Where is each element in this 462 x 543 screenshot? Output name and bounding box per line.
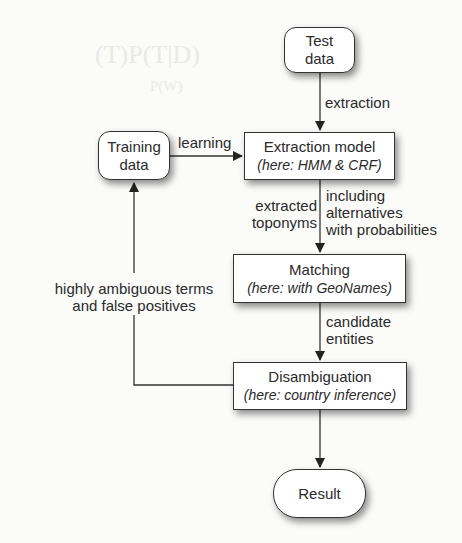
- node-title: Disambiguation: [268, 368, 371, 386]
- node-label: Training: [107, 138, 161, 156]
- node-test-data: Test data: [284, 27, 355, 73]
- label-line: entities: [326, 330, 391, 347]
- node-result: Result: [273, 469, 366, 518]
- node-title: Matching: [289, 261, 350, 279]
- label-line: extracted: [250, 197, 317, 214]
- node-title: Extraction model: [264, 138, 376, 156]
- node-extraction-model: Extraction model (here: HMM & CRF): [244, 132, 395, 180]
- node-subtitle: (here: with GeoNames): [247, 279, 392, 297]
- label-line: toponyms: [250, 214, 317, 231]
- edge-label-learning: learning: [178, 134, 231, 151]
- edge-label-extracted-toponyms: extracted toponyms: [250, 197, 317, 231]
- node-subtitle: (here: country inference): [244, 386, 397, 404]
- label-line: highly ambiguous terms: [24, 280, 244, 297]
- node-subtitle: (here: HMM & CRF): [257, 156, 381, 174]
- node-disambiguation: Disambiguation (here: country inference): [233, 362, 407, 410]
- label-line: with probabilities: [326, 221, 437, 238]
- label-line: candidate: [326, 313, 391, 330]
- edge-label-feedback: highly ambiguous terms and false positiv…: [24, 280, 244, 314]
- node-label: data: [119, 156, 148, 174]
- label-line: and false positives: [24, 297, 244, 314]
- label-line: including: [326, 187, 437, 204]
- node-label: Test: [306, 32, 334, 50]
- label-line: alternatives: [326, 204, 437, 221]
- node-title: Result: [298, 485, 341, 503]
- edge-label-extraction: extraction: [325, 94, 390, 111]
- node-label: data: [305, 50, 334, 68]
- edge-label-candidate-entities: candidate entities: [326, 313, 391, 347]
- edge-label-including-alternatives: including alternatives with probabilitie…: [326, 187, 437, 238]
- node-matching: Matching (here: with GeoNames): [233, 254, 406, 303]
- node-training-data: Training data: [98, 131, 170, 180]
